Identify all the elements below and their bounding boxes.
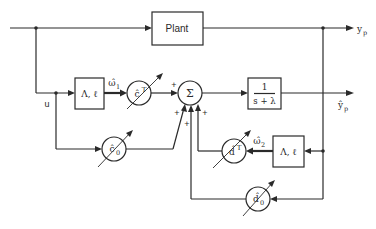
model-numerator: 1 xyxy=(262,82,268,92)
d-gain-label: d̂ xyxy=(229,145,236,157)
filter2-label: Λ, ℓ xyxy=(279,147,297,157)
model-denominator: s + λ xyxy=(253,96,276,106)
arrow-icon xyxy=(346,25,354,31)
d0-gain-sub: 0 xyxy=(260,199,264,207)
estimate-sub: p xyxy=(344,105,348,113)
c-gain-label: ĉ xyxy=(134,89,139,99)
arrow-icon xyxy=(346,90,354,96)
arrow-icon xyxy=(68,90,75,96)
output-label: y xyxy=(356,24,363,34)
sign-d-in: + xyxy=(202,108,207,118)
sign-c0-in: + xyxy=(174,108,179,118)
omega1-label: ω̂ xyxy=(108,78,115,88)
d0-gain-label: d̂ xyxy=(253,192,260,204)
sign-c-in: + xyxy=(171,80,176,90)
summer-label: Σ xyxy=(186,87,194,100)
estimate-label: ŷ xyxy=(337,100,344,110)
filter1-label: Λ, ℓ xyxy=(80,89,98,99)
d-gain-sup: T xyxy=(237,144,242,152)
arrow-icon xyxy=(145,25,152,31)
arrow-icon xyxy=(120,90,127,97)
u-label: u xyxy=(44,99,49,109)
arrow-icon xyxy=(188,105,194,112)
block-diagram: Plant Λ, ℓ Λ, ℓ 1 s + λ Σ ĉ T ĉ 0 d̂ T d… xyxy=(0,0,376,229)
omega1-sub: 1 xyxy=(116,83,120,91)
output-sub: p xyxy=(363,29,367,37)
omega2-label: ω̂ xyxy=(253,136,260,146)
c-gain-sup: T xyxy=(142,86,147,94)
omega2-sub: 2 xyxy=(261,141,265,149)
arrow-icon xyxy=(195,104,201,111)
arrow-icon xyxy=(171,90,178,96)
plant-label: Plant xyxy=(166,23,189,34)
c0-gain-label: ĉ xyxy=(109,144,114,154)
arrow-icon xyxy=(246,148,253,155)
arrow-icon xyxy=(270,196,277,202)
arrow-icon xyxy=(181,104,187,112)
arrow-icon xyxy=(304,148,311,154)
c0-gain-sub: 0 xyxy=(116,149,120,157)
sign-d0-in: + xyxy=(184,119,189,129)
arrow-icon xyxy=(241,90,248,96)
arrow-icon xyxy=(95,146,102,152)
